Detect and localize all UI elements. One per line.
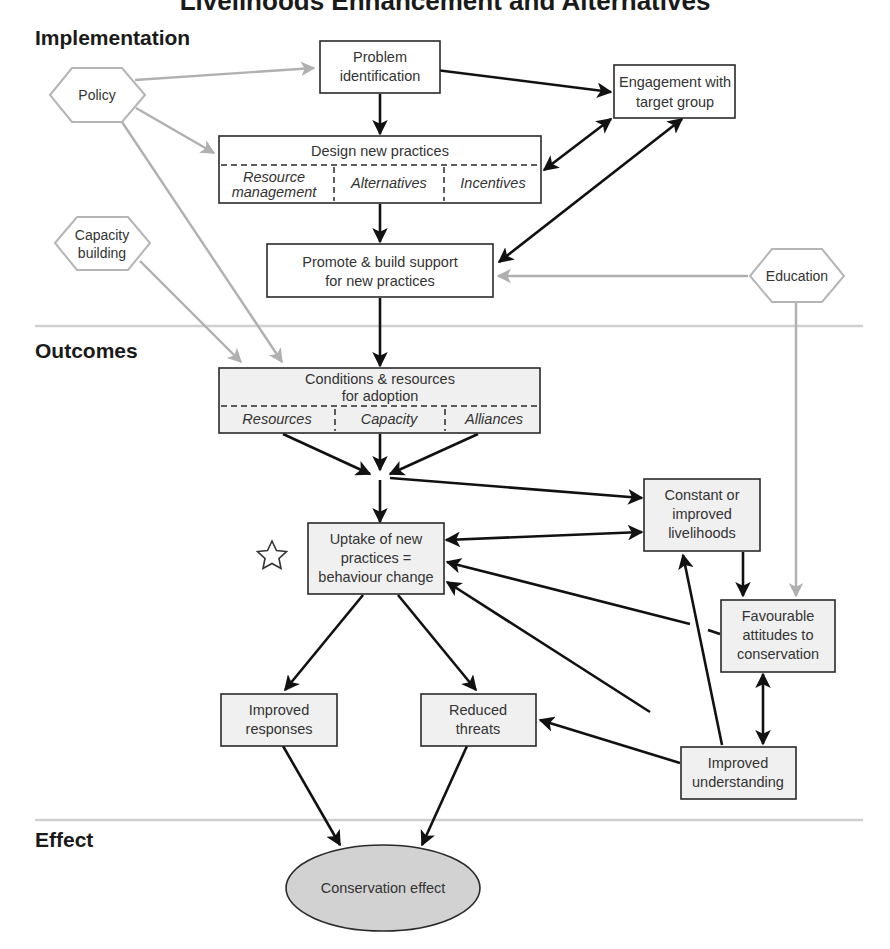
arrow-design-engagement [544, 119, 611, 170]
arrow-policy-to-design [136, 108, 214, 153]
engagement-label-line2: target group [636, 94, 714, 110]
responses-label-line2: responses [246, 721, 313, 737]
capacity-building-label-line1: Capacity [75, 227, 129, 243]
livelihoods-label-line2: improved [672, 506, 732, 522]
arrow-understanding-to-livelihoods [683, 555, 722, 745]
education-label: Education [766, 268, 828, 284]
box-reduced-threats: Reduced threats [421, 694, 536, 746]
hex-policy: Policy [50, 68, 145, 122]
promote-label-line2: for new practices [325, 273, 435, 289]
design-sub-resource-management-line2: management [232, 184, 318, 200]
attitudes-label-line2: attitudes to [743, 627, 814, 643]
box-uptake-behaviour-change: Uptake of new practices = behaviour chan… [308, 523, 444, 594]
livelihoods-label-line1: Constant or [665, 487, 740, 503]
uptake-label-line3: behaviour change [318, 569, 433, 585]
arrow-policy-to-problem [135, 68, 314, 80]
conditions-sub-alliances: Alliances [464, 411, 523, 427]
box-design-new-practices: Design new practices Resource management… [219, 136, 541, 203]
box-livelihoods: Constant or improved livelihoods [644, 479, 760, 551]
hex-education: Education [750, 249, 844, 302]
promote-label-line1: Promote & build support [302, 254, 458, 270]
policy-label: Policy [78, 87, 115, 103]
theory-of-change-diagram: Livelihoods Enhancement and Alternatives… [0, 0, 890, 949]
arrow-uptake-livelihoods [446, 532, 642, 540]
uptake-label-line2: practices = [341, 550, 412, 566]
box-improved-responses: Improved responses [221, 694, 337, 746]
arrow-problem-engagement [420, 68, 611, 92]
hex-capacity-building: Capacity building [55, 217, 150, 270]
capacity-building-label-line2: building [78, 245, 126, 261]
diagram-title: Livelihoods Enhancement and Alternatives [180, 0, 711, 16]
arrow-alliances-to-junction [390, 434, 478, 474]
section-implementation: Implementation [35, 26, 190, 49]
problem-label-line1: Problem [353, 49, 407, 65]
conservation-effect-node: Conservation effect [286, 845, 480, 931]
arrow-threats-to-effect [422, 746, 467, 845]
conservation-effect-label: Conservation effect [321, 880, 446, 896]
design-sub-resource-management-line1: Resource [243, 169, 305, 185]
responses-label-line1: Improved [249, 702, 309, 718]
arrow-understanding-to-uptake [447, 582, 650, 712]
understanding-label-line2: understanding [692, 774, 784, 790]
box-favourable-attitudes: Favourable attitudes to conservation [721, 600, 835, 672]
arrow-understanding-to-threats [540, 720, 680, 763]
conditions-sub-resources: Resources [242, 411, 311, 427]
box-conditions-resources: Conditions & resources for adoption Reso… [219, 368, 540, 433]
conditions-title-line2: for adoption [342, 388, 419, 404]
box-promote-support: Promote & build support for new practice… [267, 244, 493, 297]
arrow-resources-to-junction [283, 434, 370, 474]
understanding-label-line1: Improved [708, 755, 768, 771]
engagement-label-line1: Engagement with [619, 74, 731, 90]
attitudes-label-line3: conservation [737, 646, 819, 662]
arrow-attitudes-to-uptake-head [447, 562, 462, 566]
problem-label-line2: identification [340, 68, 421, 84]
threats-label-line1: Reduced [449, 702, 507, 718]
design-sub-alternatives: Alternatives [350, 175, 427, 191]
design-title: Design new practices [311, 143, 449, 159]
section-effect: Effect [35, 828, 93, 851]
threats-label-line2: threats [456, 721, 500, 737]
arrow-attitudes-stub [708, 630, 720, 634]
attitudes-label-line1: Favourable [742, 608, 815, 624]
livelihoods-label-line3: livelihoods [668, 525, 736, 541]
box-engagement: Engagement with target group [614, 65, 735, 118]
arrow-attitudes-to-uptake-line [462, 566, 690, 624]
box-problem-identification: Problem identification [320, 41, 440, 93]
design-sub-incentives: Incentives [460, 175, 525, 191]
box-improved-understanding: Improved understanding [681, 747, 796, 799]
arrow-responses-to-effect [283, 746, 340, 845]
arrow-uptake-to-threats [398, 595, 476, 690]
uptake-label-line1: Uptake of new [330, 531, 423, 547]
star-icon [258, 541, 287, 569]
capacity-building-hexagon-shape [55, 217, 150, 270]
conditions-title-line1: Conditions & resources [305, 371, 455, 387]
arrow-junction-to-livelihoods [390, 478, 642, 498]
conditions-sub-capacity: Capacity [361, 411, 418, 427]
arrow-uptake-to-responses [285, 595, 363, 690]
section-outcomes: Outcomes [35, 339, 138, 362]
